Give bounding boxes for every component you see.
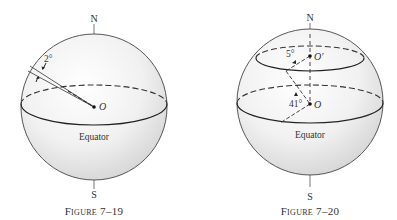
- label-center-o: O: [314, 99, 321, 110]
- caption-figure-7-19: Figure 7–19: [65, 205, 124, 217]
- caption-word: Figure: [281, 205, 313, 217]
- label-angle-2deg: 2°: [44, 54, 53, 64]
- label-north: N: [306, 12, 313, 23]
- caption-number: 7–19: [100, 205, 123, 217]
- label-north: N: [90, 13, 97, 24]
- caption-figure-7-20: Figure 7–20: [281, 205, 340, 217]
- label-center-oprime: O′: [314, 51, 324, 62]
- caption-number: 7–20: [316, 205, 339, 217]
- label-angle-5deg: 5°: [286, 49, 295, 59]
- figure-7-20: N S O′ O 5° 41° Equator Figure 7–20: [237, 12, 383, 217]
- caption-word: Figure: [65, 205, 97, 217]
- label-equator: Equator: [79, 132, 110, 142]
- label-equator: Equator: [295, 130, 326, 140]
- label-angle-41deg: 41°: [289, 99, 303, 109]
- label-center-o: O: [99, 101, 106, 112]
- center-point-o: [92, 105, 96, 109]
- label-south: S: [307, 191, 313, 202]
- label-south: S: [91, 189, 97, 200]
- figure-7-19: N S O Equator 2° Figure 7–19: [21, 13, 167, 217]
- center-point-o: [308, 102, 312, 106]
- center-point-oprime: [308, 54, 312, 58]
